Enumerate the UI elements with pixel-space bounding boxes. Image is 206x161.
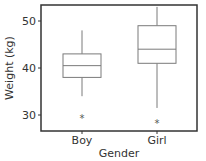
y-axis-title: Weight (kg) xyxy=(3,36,16,100)
y-tick-label: 50 xyxy=(22,15,36,28)
box-girl: * xyxy=(138,7,176,129)
x-tick-label: Girl xyxy=(147,134,166,147)
x-tick-label: Boy xyxy=(72,134,93,147)
box-boy: * xyxy=(63,30,101,124)
y-tick-label: 40 xyxy=(22,62,36,75)
outlier-marker: * xyxy=(80,113,85,124)
iqr-box xyxy=(138,26,176,64)
outlier-marker: * xyxy=(155,118,160,129)
box-plot-chart: 304050*Boy*GirlGenderWeight (kg) xyxy=(0,0,206,161)
y-tick-label: 30 xyxy=(22,109,36,122)
x-axis-title: Gender xyxy=(99,147,140,160)
